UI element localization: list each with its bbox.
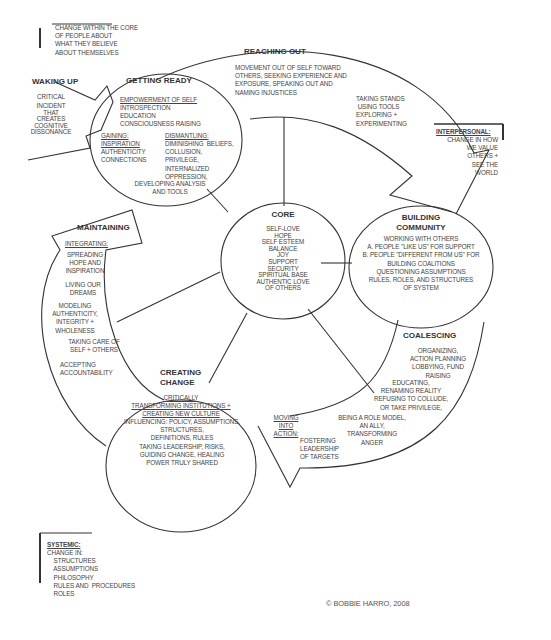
dismantling-label: DISMANTLING: [165, 132, 209, 140]
dismantling-text: DIMINISHING BELIEFS, COLLUSION, PRIVILEG… [165, 140, 234, 181]
maintaining-item-5: ACCEPTING ACCOUNTABILITY [60, 361, 113, 377]
moving-into-action-label: MOVING INTO ACTION: [268, 414, 304, 439]
maintaining-item-3: MODELING AUTHENTICITY, INTEGRITY + WHOLE… [48, 302, 102, 335]
gaining-text: AUTHENTICITY CONNECTIONS [101, 148, 146, 164]
empowerment-text: INTROSPECTION EDUCATION CONSCIOUSNESS RA… [120, 104, 201, 129]
creating-change-text: INFLUENCING: POLICY, ASSUMPTIONS, STRUCT… [116, 418, 248, 467]
taking-stands-text: TAKING STANDS USING TOOLS EXPLORING + EX… [356, 95, 407, 128]
core-title: CORE [253, 210, 313, 220]
interpersonal-note: CHANGE IN HOW WE VALUE OTHERS + SEE THE … [440, 136, 498, 177]
maintaining-item-2: LIVING OUR DREAMS [58, 281, 108, 297]
maintaining-item-1: SPREADING HOPE AND INSPIRATION [60, 251, 110, 276]
spoke-creating-change [209, 313, 247, 383]
developing-text: DEVELOPING ANALYSIS AND TOOLS [128, 180, 212, 196]
waking-up-title: WAKING UP [32, 77, 78, 87]
creating-change-underlined: CRITICALLY TRANSFORMING INSTITUTIONS + C… [121, 394, 241, 419]
spoke-maintaining [117, 272, 220, 322]
waking-up-line1: CRITICAL [28, 93, 74, 101]
interpersonal-label: INTERPERSONAL: [436, 128, 491, 136]
coalescing-text-3: BEING A ROLE MODEL, AN ALLY, TRANSFORMIN… [333, 414, 411, 447]
intrapersonal-note: CHANGE WITHIN THE CORE OF PEOPLE ABOUT W… [55, 24, 138, 57]
maintaining-title: MAINTAINING [77, 223, 130, 233]
building-community-title: BUILDING COMMUNITY [391, 213, 451, 233]
coalescing-text-2: EDUCATING, RENAMING REALITY REFUSING TO … [366, 379, 456, 412]
empowerment-label: EMPOWERMENT OF SELF [120, 96, 197, 104]
gaining-label: GAINING: INSPIRATION [101, 132, 140, 148]
systemic-label: SYSTEMIC: [47, 541, 80, 549]
integrating-label: INTEGRATING: [65, 240, 108, 248]
reaching-out-text: MOVEMENT OUT OF SELF TOWARD OTHERS, SEEK… [235, 64, 347, 97]
building-community-text: WORKING WITH OTHERS A. PEOPLE "LIKE US" … [355, 235, 487, 292]
spoke-coalescing [308, 309, 374, 393]
copyright-credit: © BOBBIE HARRO, 2008 [326, 600, 410, 608]
creating-change-title: CREATING CHANGE [160, 368, 201, 388]
core-items: SELF-LOVE HOPE SELF ESTEEM BALANCE JOY S… [238, 226, 328, 292]
coalescing-text-1: ORGANIZING, ACTION PLANNING LOBBYING, FU… [400, 347, 476, 380]
getting-ready-title: GETTING READY [126, 76, 192, 86]
maintaining-item-4: TAKING CARE OF SELF + OTHERS [62, 338, 126, 354]
waking-up-line2: INCIDENT THAT CREATES COGNITIVE DISSONAN… [26, 103, 76, 136]
moving-into-action-text: FOSTERING LEADERSHIP OF TARGETS [300, 437, 339, 462]
systemic-note: CHANGE IN: STRUCTURES ASSUMPTIONS PHILOS… [47, 549, 135, 598]
coalescing-title: COALESCING [403, 331, 456, 341]
reaching-out-title: REACHING OUT [244, 47, 306, 57]
